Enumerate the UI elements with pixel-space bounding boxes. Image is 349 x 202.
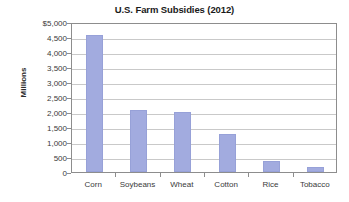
bar[interactable] [307,167,324,172]
x-tick-mark [248,173,249,177]
y-tick-label: 4,500 [7,34,67,43]
y-tick-mark [67,128,71,129]
bar[interactable] [263,161,280,172]
gridline [72,39,336,40]
plot-area [71,23,337,173]
y-tick-label: 1,500 [7,124,67,133]
x-tick-mark [115,173,116,177]
y-tick-mark [67,83,71,84]
gridline [72,159,336,160]
y-tick-label: $5,000 [7,19,67,28]
x-tick-mark [293,173,294,177]
gridline [72,54,336,55]
y-tick-mark [67,98,71,99]
y-tick-mark [67,113,71,114]
gridline [72,84,336,85]
y-tick-mark [67,68,71,69]
bar[interactable] [219,134,236,172]
gridline [72,114,336,115]
bar-chart-figure: U.S. Farm Subsidies (2012) Millions 0500… [0,0,349,202]
gridline [72,129,336,130]
y-tick-mark [67,23,71,24]
y-tick-label: 0 [7,169,67,178]
y-tick-label: 2,500 [7,94,67,103]
y-tick-mark [67,143,71,144]
bar[interactable] [130,110,147,172]
y-tick-label: 500 [7,154,67,163]
gridline [72,99,336,100]
y-tick-mark [67,38,71,39]
x-tick-mark [160,173,161,177]
x-tick-label: Tobacco [285,180,345,189]
y-tick-label: 1,000 [7,139,67,148]
x-tick-mark [204,173,205,177]
y-tick-label: 2,000 [7,109,67,118]
gridline [72,144,336,145]
gridline [72,69,336,70]
chart-title: U.S. Farm Subsidies (2012) [0,4,349,15]
bar[interactable] [86,35,103,172]
bar[interactable] [174,112,191,172]
y-tick-mark [67,173,71,174]
y-tick-mark [67,158,71,159]
y-tick-label: 4,000 [7,49,67,58]
y-tick-label: 3,500 [7,64,67,73]
y-tick-mark [67,53,71,54]
y-tick-label: 3,000 [7,79,67,88]
